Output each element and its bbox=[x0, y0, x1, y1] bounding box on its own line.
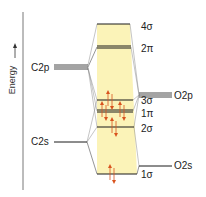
connector-line bbox=[88, 47, 97, 67]
energy-axis-label: Energy bbox=[7, 65, 17, 94]
mo-label-1sigma: 1σ bbox=[141, 169, 154, 180]
ao-label-c2p: C2p bbox=[31, 62, 50, 73]
connector-line bbox=[88, 24, 97, 65]
connector-line bbox=[87, 127, 97, 142]
mo-label-2pi: 2π bbox=[141, 43, 154, 54]
mo-label-2sigma: 2σ bbox=[141, 123, 154, 134]
energy-arrow-head-icon bbox=[13, 43, 17, 48]
connector-line bbox=[87, 100, 97, 142]
ao-label-o2p: O2p bbox=[174, 90, 193, 101]
connector-line bbox=[137, 166, 139, 174]
connector-line bbox=[87, 142, 97, 174]
mo-label-3sigma: 3σ bbox=[141, 95, 154, 106]
connector-line bbox=[88, 67, 97, 111]
ao-label-o2s: O2s bbox=[174, 160, 192, 171]
connector-line bbox=[134, 95, 139, 127]
ao-label-c2s: C2s bbox=[31, 136, 49, 147]
mo-diagram: Energy C2p C2s O2p O2s 4σ 2π 3σ 1π 2σ 1σ bbox=[0, 0, 206, 197]
mo-label-4sigma: 4σ bbox=[141, 21, 154, 32]
electron-pair-1sigma-down-arrow-head-icon bbox=[112, 180, 116, 184]
mo-label-1pi: 1π bbox=[141, 108, 154, 119]
